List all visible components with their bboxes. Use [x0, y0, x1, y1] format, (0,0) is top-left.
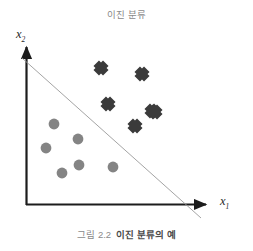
y-axis-label: x2: [16, 27, 25, 44]
class-0-marker-group: [41, 119, 119, 179]
figure-caption-text: 이진 분류의 예: [116, 229, 175, 240]
data-point-circle: [108, 162, 119, 173]
data-point-circle: [49, 119, 60, 130]
data-point-circle: [74, 160, 85, 171]
figure-caption: 그림 2.2 이진 분류의 예: [0, 228, 253, 241]
scatter-plot-canvas: [0, 0, 253, 251]
class-1-marker-group: [91, 58, 164, 135]
figure-caption-number: 그림 2.2: [77, 229, 111, 240]
data-point-cross: [132, 64, 151, 83]
data-point-circle: [57, 168, 68, 179]
data-point-circle: [41, 143, 52, 154]
binary-classification-figure: 이진 분류 x2 x1 그림 2.2 이진 분류의 예: [0, 0, 253, 251]
y-axis-label-subscript: 2: [22, 35, 26, 44]
decision-boundary-line: [22, 58, 201, 218]
x-axis-label: x1: [220, 194, 229, 211]
data-point-cross: [91, 58, 110, 77]
x-axis-label-subscript: 1: [226, 202, 230, 211]
data-point-circle: [73, 134, 84, 145]
data-point-cross: [125, 116, 144, 135]
data-point-cross: [98, 94, 117, 113]
